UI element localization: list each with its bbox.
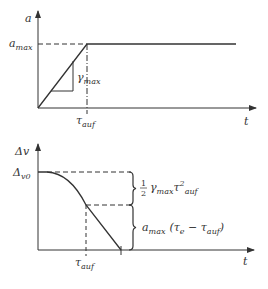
frac-numerator: 1 <box>141 179 146 188</box>
amax-label: amax <box>9 37 33 52</box>
top-y-label: a <box>25 12 32 25</box>
diagram-canvas: a t amax γmax τauf Δv Δv0 t τauf 1 2 γma… <box>0 0 268 289</box>
bottom-tau-auf-label: τauf <box>75 256 96 271</box>
brace-upper <box>129 172 136 205</box>
acceleration-curve <box>38 44 236 108</box>
brace2-formula: amax(τe − τauf) <box>142 221 224 236</box>
brace1-formula: 1 2 γmaxτ2auf <box>140 179 200 198</box>
dv0-label: Δv0 <box>12 166 31 181</box>
frac-denominator: 2 <box>141 189 146 198</box>
bottom-y-label: Δv <box>14 145 30 158</box>
top-tau-auf-label: τauf <box>76 114 97 129</box>
bottom-chart: Δv Δv0 t τauf 1 2 γmaxτ2auf amax(τe − τa… <box>12 144 254 271</box>
top-x-label: t <box>244 115 249 128</box>
bottom-x-label: t <box>243 255 248 268</box>
top-chart: a t amax γmax τauf <box>9 11 256 129</box>
delta-v-curve <box>38 172 121 250</box>
brace-lower <box>129 205 136 250</box>
gamma-max-label: γmax <box>77 71 101 86</box>
brace1-text: γmaxτ2auf <box>150 179 200 196</box>
